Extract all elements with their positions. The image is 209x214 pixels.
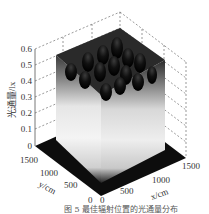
svg-text:0.2: 0.2: [21, 108, 32, 118]
svg-text:1000: 1000: [152, 175, 171, 185]
svg-text:0: 0: [28, 141, 33, 151]
svg-text:500: 500: [120, 186, 134, 196]
svg-text:0.5: 0.5: [21, 60, 33, 70]
y-axis-label: y/cm: [37, 179, 58, 196]
svg-text:1500: 1500: [182, 161, 201, 171]
svg-text:0.4: 0.4: [21, 76, 33, 86]
z-axis-label: 光通量/lx: [6, 81, 17, 118]
figure-caption: 图 5 最佳辐射位置的光通量分布: [64, 203, 209, 214]
svg-text:0.3: 0.3: [21, 92, 33, 102]
svg-text:1000: 1000: [40, 168, 59, 178]
svg-text:0.1: 0.1: [21, 124, 32, 134]
x-axis-label: x/cm: [149, 186, 169, 202]
svg-text:1500: 1500: [20, 155, 39, 165]
svg-text:500: 500: [64, 180, 78, 190]
surface-chart: 0.6 0.5 0.4 0.3 0.2 0.1 0 光通量/lx 1500 10…: [0, 0, 209, 214]
z-ticks: 0.6 0.5 0.4 0.3 0.2 0.1 0: [21, 44, 33, 151]
svg-text:0.6: 0.6: [21, 44, 33, 54]
